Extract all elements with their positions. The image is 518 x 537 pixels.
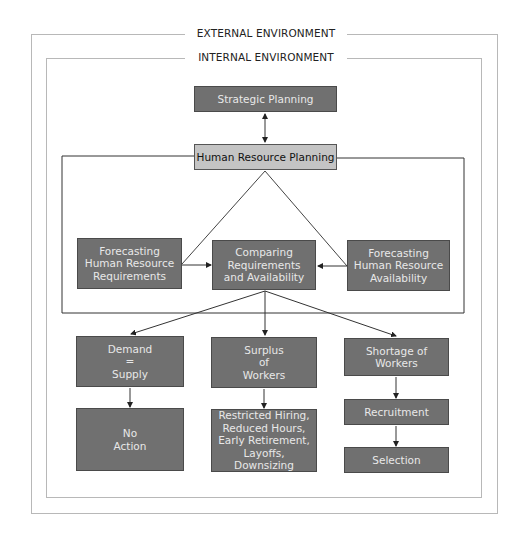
forecasting-requirements-node: Forecasting Human Resource Requirements xyxy=(77,238,182,289)
surplus-actions-node: Restricted Hiring, Reduced Hours, Early … xyxy=(211,409,317,472)
demand-equals-supply-node: Demand = Supply xyxy=(76,336,184,387)
no-action-label: No Action xyxy=(114,427,147,452)
no-action-node: No Action xyxy=(76,408,184,471)
human-resource-planning-node: Human Resource Planning xyxy=(194,144,337,170)
forecasting-requirements-label: Forecasting Human Resource Requirements xyxy=(85,245,174,283)
comparing-node: Comparing Requirements and Availability xyxy=(212,240,316,290)
strategic-planning-node: Strategic Planning xyxy=(194,86,337,112)
surplus-label: Surplus of Workers xyxy=(243,344,285,382)
selection-label: Selection xyxy=(372,454,420,467)
selection-node: Selection xyxy=(344,447,449,473)
human-resource-planning-label: Human Resource Planning xyxy=(197,151,335,164)
strategic-planning-label: Strategic Planning xyxy=(217,93,313,106)
surplus-node: Surplus of Workers xyxy=(211,337,317,388)
forecasting-availability-node: Forecasting Human Resource Availability xyxy=(347,240,450,291)
forecasting-availability-label: Forecasting Human Resource Availability xyxy=(354,247,443,285)
demand-equals-supply-label: Demand = Supply xyxy=(108,343,153,381)
shortage-label: Shortage of Workers xyxy=(366,345,427,370)
recruitment-label: Recruitment xyxy=(364,406,429,419)
surplus-actions-label: Restricted Hiring, Reduced Hours, Early … xyxy=(212,409,316,472)
recruitment-node: Recruitment xyxy=(344,399,449,425)
comparing-label: Comparing Requirements and Availability xyxy=(224,246,304,284)
shortage-node: Shortage of Workers xyxy=(344,338,449,376)
